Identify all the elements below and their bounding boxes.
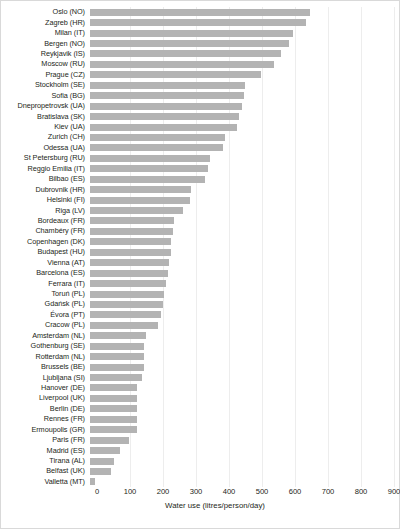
bar-track: [90, 111, 394, 121]
bar-track: [90, 101, 394, 111]
bar: [90, 155, 210, 162]
bar-category-label: Stockholm (SE): [8, 81, 90, 89]
bar: [90, 384, 137, 391]
bar: [90, 113, 239, 120]
bar-row: Copenhagen (DK): [8, 237, 394, 247]
bar-row: Hanover (DE): [8, 383, 394, 393]
bar-row: Prague (CZ): [8, 70, 394, 80]
bar-row: Gdańsk (PL): [8, 299, 394, 309]
bar-track: [90, 122, 394, 132]
bar: [90, 468, 111, 475]
bar-track: [90, 383, 394, 393]
bar-category-label: Ferrara (IT): [8, 280, 90, 288]
bar-category-label: Oslo (NO): [8, 8, 90, 16]
bar-category-label: Bratislava (SK): [8, 113, 90, 121]
bar-row: St Petersburg (RU): [8, 153, 394, 163]
bar: [90, 207, 183, 214]
bar: [90, 249, 171, 256]
x-tick-label: 700: [322, 487, 335, 497]
bar-track: [90, 247, 394, 257]
bar-track: [90, 341, 394, 351]
chart-figure: Oslo (NO)Zagreb (HR)Milan (IT)Bergen (NO…: [0, 0, 400, 529]
bar-category-label: Bilbao (ES): [8, 175, 90, 183]
bar-track: [90, 299, 394, 309]
bar-category-label: Gdańsk (PL): [8, 300, 90, 308]
bar-row: Tirana (AL): [8, 456, 394, 466]
bar: [90, 176, 205, 183]
bar-row: Odessa (UA): [8, 143, 394, 153]
bar: [90, 9, 310, 16]
bar-row: Belfast (UK): [8, 466, 394, 476]
x-axis-title-label: Water use (litres/person/day): [165, 501, 265, 510]
bar-track: [90, 331, 394, 341]
bar-category-label: Reykjavik (IS): [8, 50, 90, 58]
bar-row: Zurich (CH): [8, 132, 394, 142]
bar-track: [90, 59, 394, 69]
bar-row: Ermoupolis (GR): [8, 425, 394, 435]
bar-track: [90, 445, 394, 455]
bar: [90, 228, 173, 235]
bar-track: [90, 226, 394, 236]
bar-row: Ferrara (IT): [8, 278, 394, 288]
bar-row: Dubrovnik (HR): [8, 184, 394, 194]
bar-row: Milan (IT): [8, 28, 394, 38]
bar: [90, 19, 306, 26]
x-tick-label: 500: [256, 487, 269, 497]
bar-row: Rotterdam (NL): [8, 351, 394, 361]
bar-track: [90, 17, 394, 27]
bar-category-label: Ermoupolis (GR): [8, 426, 90, 434]
bar-row: Reggio Emilia (IT): [8, 164, 394, 174]
bar-category-label: Prague (CZ): [8, 71, 90, 79]
x-axis-title: Water use (litres/person/day): [8, 501, 394, 510]
bar-row: Rennes (FR): [8, 414, 394, 424]
bar-category-label: St Petersburg (RU): [8, 154, 90, 162]
bar-row: Sofia (BG): [8, 91, 394, 101]
bar: [90, 197, 190, 204]
bar-row: Moscow (RU): [8, 59, 394, 69]
bar-row: Bordeaux (FR): [8, 216, 394, 226]
bar-category-label: Gothenburg (SE): [8, 342, 90, 350]
bar: [90, 301, 163, 308]
bar-row: Amsterdam (NL): [8, 331, 394, 341]
bar-row: Riga (LV): [8, 205, 394, 215]
bar-track: [90, 195, 394, 205]
bar-track: [90, 456, 394, 466]
bar-track: [90, 414, 394, 424]
bar: [90, 259, 169, 266]
gridline: [394, 7, 395, 487]
bar-track: [90, 28, 394, 38]
bar-row: Liverpool (UK): [8, 393, 394, 403]
bar-track: [90, 362, 394, 372]
bar-category-label: Zurich (CH): [8, 133, 90, 141]
bar-track: [90, 91, 394, 101]
bar: [90, 374, 142, 381]
bar-track: [90, 425, 394, 435]
bar-category-label: Madrid (ES): [8, 447, 90, 455]
bar-row: Kiev (UA): [8, 122, 394, 132]
bar-category-label: Dnepropetrovsk (UA): [8, 102, 90, 110]
bar: [90, 332, 146, 339]
bar-category-label: Hanover (DE): [8, 384, 90, 392]
x-tick-label: 400: [223, 487, 236, 497]
bar-track: [90, 258, 394, 268]
bar-track: [90, 153, 394, 163]
bar: [90, 311, 161, 318]
bar-row: Paris (FR): [8, 435, 394, 445]
bar-row: Madrid (ES): [8, 445, 394, 455]
bar-category-label: Tirana (AL): [8, 457, 90, 465]
bar-rows: Oslo (NO)Zagreb (HR)Milan (IT)Bergen (NO…: [8, 7, 394, 487]
bar-category-label: Paris (FR): [8, 436, 90, 444]
bar-category-label: Toruń (PL): [8, 290, 90, 298]
bar-category-label: Odessa (UA): [8, 144, 90, 152]
bar: [90, 437, 129, 444]
bar-track: [90, 70, 394, 80]
bar-row: Vienna (AT): [8, 258, 394, 268]
x-tick-label: 300: [190, 487, 203, 497]
bar: [90, 395, 137, 402]
bar-category-label: Helsinki (FI): [8, 196, 90, 204]
bar-track: [90, 278, 394, 288]
bar-category-label: Dubrovnik (HR): [8, 186, 90, 194]
bar-category-label: Barcelona (ES): [8, 269, 90, 277]
bar-row: Berlin (DE): [8, 404, 394, 414]
bar-track: [90, 164, 394, 174]
